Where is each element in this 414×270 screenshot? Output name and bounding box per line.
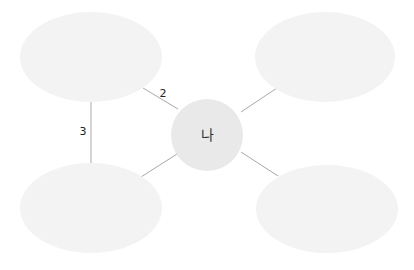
node-top-right[interactable] — [255, 12, 395, 102]
node-bottom-right[interactable] — [256, 165, 398, 253]
edge-bottomright-center — [241, 152, 278, 176]
edge-label-2: 2 — [160, 87, 167, 100]
center-node-label: 나 — [201, 127, 214, 143]
edge-topright-center — [241, 88, 277, 112]
edge-bottomleft-center — [141, 154, 177, 177]
mind-map-diagram: 나 2 3 — [0, 0, 414, 270]
node-top-left[interactable] — [20, 12, 162, 102]
node-bottom-left[interactable] — [20, 163, 162, 253]
edge-label-3: 3 — [80, 125, 87, 138]
